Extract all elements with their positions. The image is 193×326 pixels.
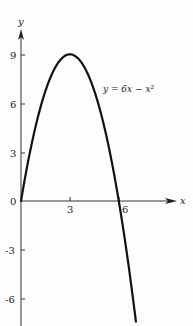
x-tick-label-6: 6 (122, 204, 128, 215)
x-ticks (70, 197, 119, 201)
y-axis-label: y (17, 16, 24, 27)
y-tick-label-6: 6 (10, 99, 16, 110)
equation-label: y = 6x − x² (102, 84, 154, 94)
y-tick-label-neg6: -6 (5, 294, 15, 305)
y-tick-label-3: 3 (10, 148, 16, 159)
x-axis-label: x (180, 195, 186, 206)
parabola-curve (21, 54, 136, 321)
origin-label: 0 (10, 196, 16, 207)
y-tick-label-9: 9 (10, 50, 16, 61)
y-tick-label-neg3: -3 (5, 245, 15, 256)
parabola-chart: y x 9 6 3 0 -3 -6 3 6 y = 6x − x² (0, 0, 193, 326)
x-tick-label-3: 3 (67, 204, 73, 215)
